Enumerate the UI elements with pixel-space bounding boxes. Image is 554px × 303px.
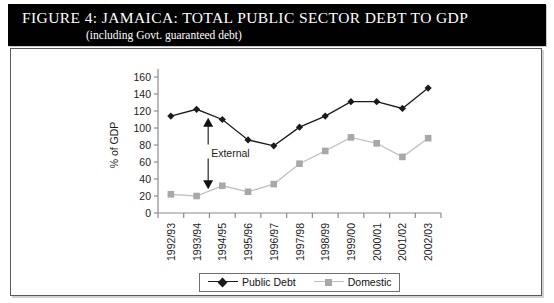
x-axis-tick-label: 1993/94 [191, 223, 203, 261]
series-line-public-debt [171, 88, 428, 146]
y-axis-title: % of GDP [108, 122, 120, 169]
x-axis-tick-label: 1995/96 [242, 223, 254, 261]
chart-legend: Public Debt Domestic [199, 273, 400, 292]
y-axis-tick-label: 60 [139, 156, 151, 168]
x-axis-tick-label: 1994/95 [216, 223, 228, 261]
figure-title: FIGURE 4: JAMAICA: TOTAL PUBLIC SECTOR D… [22, 9, 468, 27]
title-banner: FIGURE 4: JAMAICA: TOTAL PUBLIC SECTOR D… [8, 4, 546, 46]
data-point-marker [348, 134, 355, 141]
line-chart: 020406080100120140160% of GDP1992/931993… [11, 49, 541, 295]
x-axis-tick-label: 2000/01 [371, 223, 383, 261]
diamond-marker-icon [218, 278, 228, 288]
y-axis-tick-label: 40 [139, 173, 151, 185]
data-point-marker [322, 113, 329, 120]
data-point-marker [219, 183, 226, 190]
data-point-marker [373, 98, 380, 105]
data-point-marker [167, 113, 174, 120]
chart-panel: 020406080100120140160% of GDP1992/931993… [10, 48, 542, 296]
x-axis-tick-label: 1997/98 [294, 223, 306, 261]
arrow-down-icon [203, 180, 213, 189]
figure-container: FIGURE 4: JAMAICA: TOTAL PUBLIC SECTOR D… [0, 0, 554, 303]
data-point-marker [347, 98, 354, 105]
figure-subtitle: (including Govt. guaranteed debt) [86, 29, 242, 41]
data-point-marker [425, 135, 432, 142]
legend-swatch-domestic [314, 277, 344, 287]
data-point-marker [193, 193, 200, 200]
x-axis-tick-label: 2002/03 [422, 223, 434, 261]
data-point-marker [193, 106, 200, 113]
data-point-marker [270, 181, 277, 188]
data-point-marker [245, 188, 252, 195]
y-axis-tick-label: 140 [133, 88, 151, 100]
legend-label-domestic: Domestic [348, 276, 392, 288]
square-marker-icon [325, 279, 332, 286]
x-axis-tick-label: 1999/00 [345, 223, 357, 261]
data-point-marker [168, 191, 175, 198]
data-point-marker [296, 160, 303, 167]
legend-label-public-debt: Public Debt [242, 276, 296, 288]
x-axis-tick-label: 1996/97 [268, 223, 280, 261]
arrow-up-icon [203, 118, 213, 127]
x-axis-tick-label: 1998/99 [319, 223, 331, 261]
y-axis-tick-label: 20 [139, 190, 151, 202]
y-axis-tick-label: 0 [145, 207, 151, 219]
y-axis-tick-label: 160 [133, 71, 151, 83]
data-point-marker [322, 148, 329, 155]
legend-item-domestic: Domestic [314, 276, 392, 288]
x-axis-tick-label: 1992/93 [165, 223, 177, 261]
data-point-marker [373, 140, 380, 147]
x-axis-tick-label: 2001/02 [396, 223, 408, 261]
legend-swatch-public-debt [208, 277, 238, 287]
legend-item-public-debt: Public Debt [208, 276, 296, 288]
y-axis-tick-label: 100 [133, 122, 151, 134]
y-axis-tick-label: 120 [133, 105, 151, 117]
annotation-label-external: External [211, 147, 250, 159]
data-point-marker [399, 154, 406, 161]
y-axis-tick-label: 80 [139, 139, 151, 151]
